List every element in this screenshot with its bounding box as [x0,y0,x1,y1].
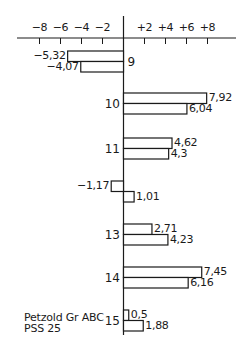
category-label: 9 [128,57,135,68]
legend-entry-series-2: PSS 25 [24,323,104,334]
bar-series-2 [124,235,168,246]
bar-series-2 [124,278,189,289]
legend: Petzold Gr ABC PSS 25 [24,312,104,334]
bar-value-label: 4,3 [171,148,188,159]
bar-value-label: −1,17 [77,180,109,191]
x-tick-label: +2 [137,22,153,33]
bar-series-1 [111,181,123,192]
bar-value-label: 6,16 [190,277,213,288]
bar-value-label: 1,88 [145,320,168,331]
bar-value-label: 7,92 [209,92,232,103]
bar-value-label: 1,01 [136,191,159,202]
bar-series-2 [81,62,124,73]
bar-series-2 [124,149,169,160]
bar-chart: −8−6−4−2+2+4+6+89−5,32−4,07107,926,04114… [0,0,250,359]
x-tick-label: −8 [32,22,48,33]
x-tick-label: +6 [179,22,195,33]
x-tick-label: −2 [95,22,111,33]
x-tick-label: +8 [200,22,216,33]
category-label: 15 [105,316,120,327]
bar-value-label: 4,23 [170,234,193,245]
bar-series-2 [124,321,144,332]
bar-series-1 [124,138,173,149]
x-tick-label: −6 [53,22,69,33]
x-tick-label: −4 [74,22,90,33]
bar-value-label: 6,04 [189,103,212,114]
bar-series-2 [124,192,135,203]
bar-series-1 [124,224,152,235]
category-label: 11 [105,144,120,155]
bar-series-1 [124,310,129,321]
category-label: 13 [105,230,120,241]
bar-series-2 [124,104,187,115]
x-tick-label: +4 [158,22,174,33]
category-label: 10 [105,99,120,110]
bar-value-label: −4,07 [47,61,79,72]
category-label: 14 [105,273,120,284]
